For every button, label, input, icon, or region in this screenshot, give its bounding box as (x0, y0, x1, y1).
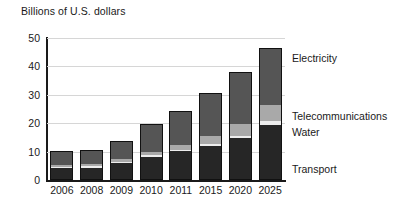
bar-segment-electricity-2025[interactable] (260, 49, 281, 105)
gridline-40 (47, 66, 285, 67)
page-title: Billions of U.S. dollars (21, 5, 126, 17)
bar-segment-transport-2015[interactable] (200, 146, 221, 179)
bar-segment-electricity-2020[interactable] (230, 73, 251, 124)
legend-label-telecommunications: Telecommunications (292, 110, 387, 122)
bar-stack-2020[interactable] (229, 72, 252, 180)
gridline-50 (47, 38, 285, 39)
bar-stack-2009[interactable] (110, 141, 133, 180)
legend-label-water: Water (292, 126, 320, 138)
bar-stack-2025[interactable] (259, 48, 282, 180)
bar-stack-2015[interactable] (199, 93, 222, 180)
bar-segment-electricity-2006[interactable] (51, 152, 72, 165)
bar-segment-transport-2010[interactable] (141, 157, 162, 179)
bar-segment-electricity-2015[interactable] (200, 94, 221, 136)
y-tick-label-10: 10 (0, 146, 40, 158)
chart-page: Billions of U.S. dollars 01020304050 200… (0, 0, 405, 220)
y-tick-label-50: 50 (0, 32, 40, 44)
bar-segment-transport-2020[interactable] (230, 138, 251, 179)
y-tick-label-40: 40 (0, 60, 40, 72)
bar-stack-2008[interactable] (80, 150, 103, 180)
bar-segment-electricity-2008[interactable] (81, 151, 102, 164)
x-axis-line (46, 180, 286, 182)
plot-area (47, 38, 285, 180)
y-tick-label-0: 0 (0, 174, 40, 186)
bar-segment-transport-2011[interactable] (170, 151, 191, 179)
y-tick-label-30: 30 (0, 89, 40, 101)
y-tick-label-20: 20 (0, 117, 40, 129)
x-tick-label-2025: 2025 (253, 184, 287, 196)
bar-stack-2010[interactable] (140, 124, 163, 180)
legend-label-transport: Transport (292, 163, 337, 175)
bar-segment-transport-2008[interactable] (81, 168, 102, 179)
bar-segment-telecommunications-2025[interactable] (260, 105, 281, 120)
bar-segment-transport-2006[interactable] (51, 168, 72, 179)
bar-segment-transport-2009[interactable] (111, 163, 132, 179)
bar-segment-electricity-2009[interactable] (111, 142, 132, 159)
bar-segment-transport-2025[interactable] (260, 125, 281, 179)
legend-label-electricity: Electricity (292, 52, 337, 64)
bar-segment-telecommunications-2020[interactable] (230, 124, 251, 136)
bar-segment-telecommunications-2015[interactable] (200, 136, 221, 144)
bar-segment-electricity-2010[interactable] (141, 125, 162, 152)
bar-segment-electricity-2011[interactable] (170, 112, 191, 146)
bar-stack-2011[interactable] (169, 111, 192, 180)
bar-stack-2006[interactable] (50, 151, 73, 180)
